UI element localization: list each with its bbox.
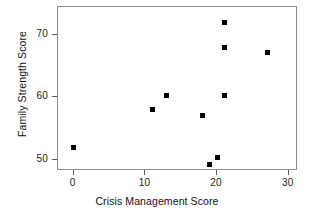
- data-point: [164, 93, 169, 98]
- data-point: [222, 93, 227, 98]
- x-axis-tick-label: 0: [58, 177, 88, 188]
- data-point: [200, 113, 205, 118]
- x-axis-tick-label: 10: [129, 177, 159, 188]
- data-point: [222, 45, 227, 50]
- y-axis-tick-label: 50: [18, 153, 48, 164]
- x-axis-tick-label: 30: [273, 177, 303, 188]
- data-point: [265, 50, 270, 55]
- data-point: [215, 155, 220, 160]
- data-point: [207, 162, 212, 167]
- plot-frame: [57, 6, 297, 170]
- data-point: [71, 145, 76, 150]
- data-point: [222, 20, 227, 25]
- y-axis-tick-label: 60: [18, 90, 48, 101]
- data-points-layer: [58, 7, 296, 169]
- data-point: [150, 107, 155, 112]
- x-axis-tick: [144, 170, 145, 175]
- y-axis-tick-label: 70: [18, 28, 48, 39]
- x-axis-tick: [216, 170, 217, 175]
- x-axis-tick-label: 20: [201, 177, 231, 188]
- x-axis-title: Crisis Management Score: [0, 195, 314, 207]
- x-axis-tick: [73, 170, 74, 175]
- x-axis-tick: [288, 170, 289, 175]
- scatter-plot-figure: Family Strength Score Crisis Management …: [0, 0, 314, 217]
